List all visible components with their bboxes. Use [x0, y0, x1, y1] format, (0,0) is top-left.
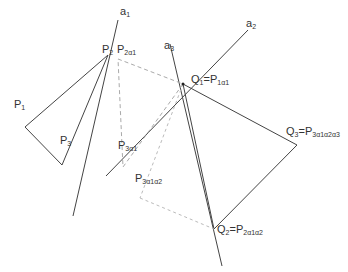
- point-q1: [182, 83, 185, 86]
- label-a2: a2: [246, 18, 256, 30]
- label-p2-alpha1: P2α1: [117, 44, 136, 56]
- label-a1-sub: 1: [126, 11, 130, 18]
- label-q3: Q3=P3α1α2α3: [286, 126, 340, 138]
- label-p1-sub: 1: [21, 104, 25, 111]
- label-q1: Q1=P1α1: [191, 74, 229, 86]
- label-p3a1-sub: 3α1: [125, 145, 137, 152]
- label-p3-alpha1: P3α1: [118, 140, 137, 152]
- triangle-p: [25, 55, 108, 165]
- label-p2: P2: [102, 44, 113, 56]
- label-q2-base: Q: [217, 223, 226, 235]
- label-q3-eqsub: 3α1α2α3: [312, 131, 340, 138]
- label-q3-eq: =P: [298, 125, 312, 137]
- label-p3-alpha1-alpha2: P3α1α2: [135, 173, 162, 185]
- label-q1-base: Q: [191, 73, 200, 85]
- label-q1-eqsub: 1α1: [217, 79, 229, 86]
- label-a1: a1: [120, 6, 130, 18]
- dash-p3a1a2-q2: [140, 198, 214, 229]
- reflection-diagram: a1 a2 a3 P1 P2 P3 P2α1 P3α1 P3α1α2 Q1=P1…: [0, 0, 348, 272]
- label-p1: P1: [14, 99, 25, 111]
- label-q3-base: Q: [286, 125, 295, 137]
- label-p3a1a2-sub: 3α1α2: [142, 178, 162, 185]
- label-q1-eq: =P: [203, 73, 217, 85]
- label-p2-sub: 2: [109, 49, 113, 56]
- label-q2-eq: =P: [229, 223, 243, 235]
- label-a2-sub: 2: [252, 23, 256, 30]
- label-p3-sub: 3: [67, 140, 71, 147]
- label-a3: a3: [164, 40, 174, 52]
- label-a3-sub: 3: [170, 45, 174, 52]
- label-p2a1-sub: 2α1: [124, 49, 136, 56]
- label-q2-eqsub: 2α1α2: [243, 229, 263, 236]
- label-q2: Q2=P2α1α2: [217, 224, 263, 236]
- triangle-q: [183, 84, 297, 229]
- label-p3: P3: [60, 135, 71, 147]
